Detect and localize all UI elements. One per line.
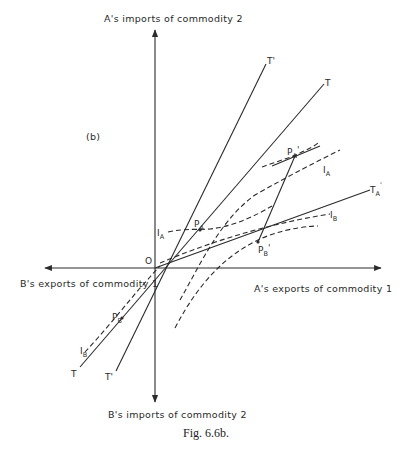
indifference-curve-IA-upper <box>180 150 340 300</box>
axis-label-right: A's exports of commodity 1 <box>254 283 392 294</box>
point-PA-dot <box>198 228 201 231</box>
panel-label: (b) <box>86 131 100 142</box>
label-IA-right: IA <box>323 165 331 178</box>
label-T-bottom: T <box>70 369 77 379</box>
label-IA-left: IA <box>157 228 165 241</box>
axis-label-bottom: B's imports of commodity 2 <box>108 409 247 420</box>
label-IB-left: IB <box>80 346 87 359</box>
origin-label: O <box>145 256 152 266</box>
point-PB: PB <box>112 312 122 325</box>
label-T-prime-top: T' <box>266 56 275 66</box>
indifference-curve-IB-lower <box>175 226 318 328</box>
terms-of-trade-line-T-prime <box>116 64 266 371</box>
label-TA-prime: TA' <box>369 181 382 198</box>
figure-caption: Fig. 6.6b. <box>183 426 229 440</box>
label-T-top: T <box>324 78 331 88</box>
point-PB-prime: PB' <box>258 243 270 258</box>
indifference-curve-IB-right <box>160 214 330 263</box>
axis-label-top: A's imports of commodity 2 <box>104 13 243 24</box>
axis-label-left: B's exports of commodity 1 <box>20 278 158 289</box>
offer-curve-diagram: A's imports of commodity 2 B's imports o… <box>0 0 402 455</box>
label-IB-right: IB <box>330 210 337 223</box>
point-PB-dot <box>120 316 123 319</box>
point-PA-prime-dot <box>293 154 296 157</box>
point-PB-prime-dot <box>256 240 259 243</box>
indifference-curve-IA-left <box>168 206 272 232</box>
label-T-prime-bottom: T' <box>104 372 113 382</box>
